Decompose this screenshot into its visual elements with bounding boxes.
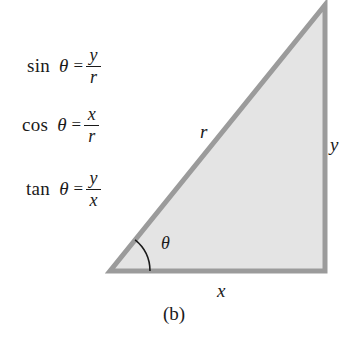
right-triangle-icon [0, 0, 360, 350]
triangle-shape [110, 5, 325, 271]
angle-theta-label: θ [161, 234, 170, 252]
figure-caption-text: (b) [163, 303, 185, 324]
opposite-side-label: y [330, 135, 338, 154]
adjacent-side-label: x [217, 281, 225, 300]
figure-caption: (b) [0, 303, 360, 325]
trigonometry-figure: sin θ = y r cos θ = x r tan θ = y [0, 0, 360, 350]
hypotenuse-label: r [200, 122, 207, 141]
